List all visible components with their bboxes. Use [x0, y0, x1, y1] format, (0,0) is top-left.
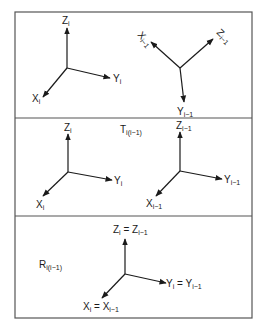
y-axis-label: Yi−1	[177, 106, 193, 118]
x-axis-label: Xi−1	[146, 198, 162, 210]
x-axis-arrow	[151, 42, 180, 68]
x-axis-arrow	[156, 171, 180, 196]
y-axis-label: Yi−1	[224, 174, 240, 186]
y-axis-label: Yi = Yi−1	[166, 278, 202, 290]
y-axis-arrow	[180, 171, 222, 179]
x-axis-label: Xi−1	[135, 29, 155, 49]
frame-i-minus-1	[156, 132, 222, 196]
z-axis-label: Zi	[64, 122, 72, 134]
y-axis-arrow	[125, 274, 166, 283]
z-axis-label: Zi−1	[176, 120, 192, 132]
transform-label: Ri(i−1)	[39, 259, 62, 272]
x-axis-label: Xi = Xi−1	[83, 301, 119, 313]
x-axis-arrow	[43, 172, 68, 196]
y-axis-arrow	[68, 172, 112, 180]
z-axis-label: Zi = Zi−1	[113, 224, 148, 236]
z-axis-arrow	[180, 39, 213, 68]
z-axis-label: Zi	[62, 15, 70, 27]
panel-1	[43, 28, 213, 102]
frame-i	[43, 134, 112, 196]
z-axis-label: Zi−1	[214, 27, 234, 47]
y-axis-label: Yi	[113, 73, 122, 85]
frame-coincident	[102, 239, 166, 298]
coordinate-frames-diagram: ZiYiXiXi−1Zi−1Yi−1ZiYiXiZi−1Yi−1Xi−1Ti(i…	[0, 0, 264, 329]
panel-2	[43, 132, 222, 196]
x-axis-arrow	[102, 274, 125, 298]
x-axis-arrow	[43, 68, 67, 97]
x-axis-label: Xi	[36, 199, 45, 211]
y-axis-arrow	[180, 68, 184, 102]
y-axis-arrow	[67, 68, 110, 78]
panel-3	[102, 239, 166, 298]
figure-border	[15, 12, 252, 318]
frame-i	[43, 28, 110, 97]
y-axis-label: Yi	[114, 175, 123, 187]
transform-label: Ti(i−1)	[120, 124, 142, 137]
labels-layer: ZiYiXiXi−1Zi−1Yi−1ZiYiXiZi−1Yi−1Xi−1Ti(i…	[32, 15, 240, 313]
x-axis-label: Xi	[32, 93, 41, 105]
outer-border	[15, 12, 252, 318]
axes-layer	[43, 28, 222, 298]
frame-i-minus-1-rotated	[151, 39, 213, 102]
